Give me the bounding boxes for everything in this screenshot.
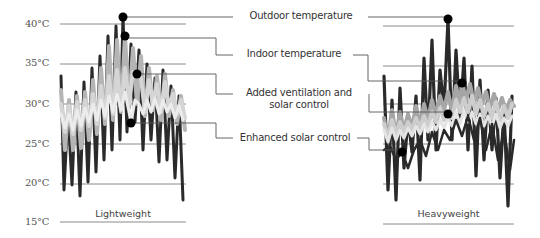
ytick-30: 30°C — [25, 98, 49, 109]
right-indoor-dot — [458, 79, 467, 88]
label-indoor-temperature: Indoor temperature — [235, 48, 353, 60]
lightweight-panel — [61, 17, 185, 200]
right-outdoor-dot — [444, 15, 453, 24]
label-added-ventilation-line1: Added ventilation and — [229, 87, 369, 99]
ytick-15: 15°C — [25, 216, 49, 227]
ytick-25: 25°C — [25, 138, 49, 149]
label-enhanced-solar-control: Enhanced solar control — [233, 132, 357, 144]
ytick-40: 40°C — [25, 18, 49, 29]
left-enhanced-solar-dot — [127, 119, 136, 128]
left-indoor-dot — [121, 32, 130, 41]
label-outdoor-temperature: Outdoor temperature — [235, 10, 367, 22]
left-outdoor-dot — [119, 13, 128, 22]
label-added-ventilation-line2: solar control — [229, 99, 369, 111]
ytick-20: 20°C — [25, 177, 49, 188]
caption-heavyweight: Heavyweight — [383, 208, 514, 219]
right-enhanced-solar-dot — [398, 148, 407, 157]
right-added-ventilation-dot — [444, 110, 453, 119]
ytick-35: 35°C — [25, 57, 49, 68]
caption-lightweight: Lightweight — [60, 208, 186, 219]
temperature-chart — [0, 0, 540, 238]
left-added-ventilation-dot — [133, 70, 142, 79]
